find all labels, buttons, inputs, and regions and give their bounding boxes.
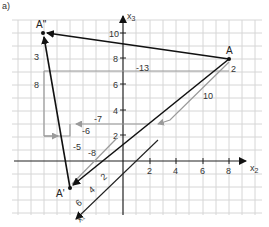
step-label-minus13: -13	[136, 63, 149, 73]
point-A	[227, 57, 231, 61]
step-label-minus6: -6	[82, 126, 90, 136]
corner-label: a)	[2, 1, 10, 11]
coordinate-diagram: a) x3 x2 x1 10 8 6 4 2 2 4 6 8 2 4	[0, 0, 269, 227]
grid	[12, 20, 262, 215]
label-A-prime: A'	[56, 188, 65, 199]
x3-axis-label: x3	[127, 11, 136, 22]
step-label-minus8: -8	[88, 148, 96, 158]
x2-tick-8: 8	[226, 166, 231, 176]
x1-tick-2: 2	[99, 171, 109, 182]
x2-tick-6: 6	[200, 166, 205, 176]
step-label-2: 2	[231, 64, 236, 74]
x2-axis-label: x2	[250, 163, 259, 174]
step-label-8: 8	[34, 80, 39, 90]
x3-tick-8: 8	[113, 54, 118, 64]
x2-tick-4: 4	[173, 166, 178, 176]
step-label-minus5: -5	[73, 142, 81, 152]
x3-tick-4: 4	[113, 106, 118, 116]
x1-tick-6: 6	[74, 197, 84, 208]
x1-tick-4: 4	[87, 184, 97, 195]
step-label-3: 3	[34, 52, 39, 62]
point-A-prime	[68, 186, 72, 190]
label-A: A	[226, 45, 233, 56]
step-label-10: 10	[203, 91, 213, 101]
x3-tick-6: 6	[113, 80, 118, 90]
point-A-double-prime	[41, 31, 45, 35]
label-A-double-prime: A"	[36, 19, 47, 30]
step-label-minus7: -7	[94, 114, 102, 124]
x3-tick-10: 10	[109, 29, 119, 39]
x2-tick-2: 2	[147, 166, 152, 176]
